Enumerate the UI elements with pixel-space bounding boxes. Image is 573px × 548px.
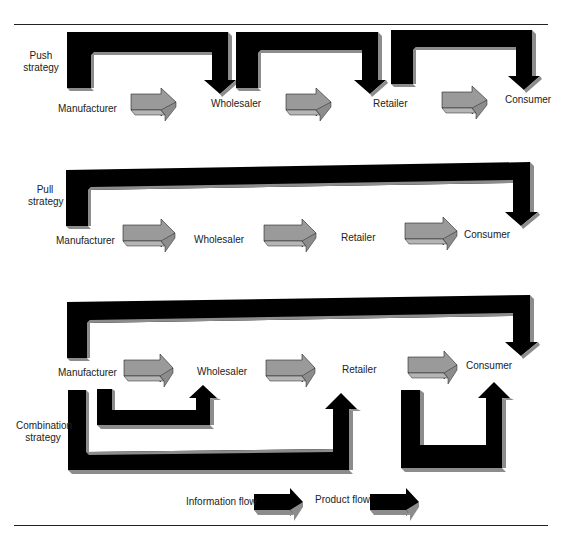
pull-node-retailer: Retailer xyxy=(341,232,375,244)
pull-info-arrow xyxy=(66,162,540,229)
combination-product-arrow-3 xyxy=(408,351,457,384)
push-info-arrow-2 xyxy=(236,32,388,97)
combination-node-wholesaler: Wholesaler xyxy=(197,366,247,378)
legend-information-flow-arrow xyxy=(254,488,303,521)
legend-product-flow-label: Product flow xyxy=(315,494,370,506)
pull-product-arrow-1 xyxy=(123,219,175,252)
pull-label-line2: strategy xyxy=(28,196,62,208)
push-product-arrow-1 xyxy=(131,88,176,121)
push-node-retailer: Retailer xyxy=(373,98,407,110)
combination-product-arrow-2 xyxy=(266,354,315,387)
push-info-arrows xyxy=(67,30,542,97)
pull-product-arrow-3 xyxy=(405,217,457,250)
push-node-consumer: Consumer xyxy=(505,94,551,106)
push-product-arrows xyxy=(131,86,487,121)
combination-product-arrows xyxy=(124,351,457,387)
combination-node-consumer: Consumer xyxy=(466,360,512,372)
pull-label-line1: Pull xyxy=(28,184,62,196)
push-node-wholesaler: Wholesaler xyxy=(211,98,261,110)
pull-product-arrows xyxy=(123,217,457,252)
push-node-manufacturer: Manufacturer xyxy=(58,103,117,115)
pull-strategy-label: Pull strategy xyxy=(28,184,62,208)
legend-product-flow-arrow xyxy=(370,488,419,521)
diagram-canvas xyxy=(0,0,573,548)
combination-node-retailer: Retailer xyxy=(342,364,376,376)
combination-retailer-to-consumer-arrow xyxy=(401,382,514,472)
push-strategy-label: Push strategy xyxy=(22,50,60,74)
legend-information-flow-label: Information flow xyxy=(186,496,257,508)
combination-wholesaler-to-wholesaler-arrow xyxy=(97,385,221,429)
pull-node-manufacturer: Manufacturer xyxy=(56,235,115,247)
combination-strategy-label: Combination strategy xyxy=(16,420,70,444)
combination-product-arrow-1 xyxy=(124,354,173,387)
pull-node-consumer: Consumer xyxy=(464,229,510,241)
push-product-arrow-3 xyxy=(442,86,487,119)
combination-node-manufacturer: Manufacturer xyxy=(58,367,117,379)
combination-label-line1: Combination xyxy=(16,420,70,432)
pull-product-arrow-2 xyxy=(264,219,316,252)
push-info-arrow-1 xyxy=(67,32,238,97)
push-label-line2: strategy xyxy=(22,62,60,74)
push-product-arrow-2 xyxy=(286,88,331,121)
combination-label-line2: strategy xyxy=(16,432,70,444)
combination-top-info-arrow xyxy=(67,295,540,361)
push-info-arrow-3 xyxy=(391,30,542,93)
pull-node-wholesaler: Wholesaler xyxy=(194,234,244,246)
push-label-line1: Push xyxy=(22,50,60,62)
